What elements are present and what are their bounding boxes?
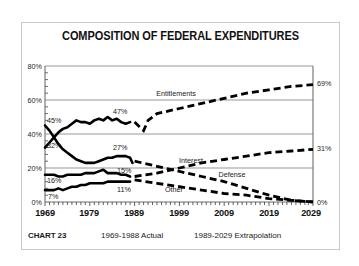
series-defense-dashed <box>135 161 313 202</box>
footer-actual-range: 1969-1988 Actual <box>101 231 163 240</box>
annotation-entitlements: Entitlements <box>156 89 196 98</box>
y-tick-40: 40% <box>28 130 43 139</box>
x-tick-1969: 1969 <box>35 208 55 218</box>
chart-root: COMPOSITION OF FEDERAL EXPENDITURES <box>0 0 359 266</box>
gridlines <box>45 66 313 202</box>
right-axis-labels: 69% 31% 0% <box>317 79 332 207</box>
value-label-7: 7% <box>48 192 59 201</box>
right-label-zero: 0% <box>317 198 328 207</box>
value-label-11: 11% <box>117 185 131 194</box>
x-axis-tick-labels: 1969 1979 1989 1999 2009 2019 2029 <box>35 208 321 218</box>
y-tick-20: 20% <box>28 164 43 173</box>
x-tick-1989: 1989 <box>124 208 144 218</box>
x-tick-2019: 2019 <box>259 208 279 218</box>
value-label-16: 16% <box>47 176 62 185</box>
footer-extrapolation-range: 1989-2029 Extrapolation <box>194 231 281 240</box>
annotation-interest: Interest <box>179 156 203 165</box>
annotation-defense: Defense <box>219 170 246 179</box>
x-tick-1979: 1979 <box>79 208 99 218</box>
x-tick-2029: 2029 <box>301 208 321 218</box>
right-label-interest: 31% <box>317 144 332 153</box>
value-label-15: 15% <box>117 166 132 175</box>
x-tick-1999: 1999 <box>169 208 189 218</box>
y-axis-tick-labels: 80% 60% 40% 20% 0% <box>28 62 43 207</box>
chart-footer: CHART 23 1969-1988 Actual 1989-2029 Extr… <box>28 231 334 245</box>
chart-plot-area: 80% 60% 40% 20% 0% 69% 31% 0% 1969 1979 … <box>0 0 359 266</box>
x-tick-2009: 2009 <box>214 208 234 218</box>
right-label-entitlements: 69% <box>317 79 332 88</box>
value-label-45: 45% <box>47 116 62 125</box>
x-axis-ticks <box>45 202 313 206</box>
annotation-other: Other <box>165 185 184 194</box>
y-tick-0: 0% <box>32 198 43 207</box>
value-label-47: 47% <box>113 107 128 116</box>
value-label-32: 32% <box>47 141 62 150</box>
y-tick-80: 80% <box>28 62 43 71</box>
value-label-27: 27% <box>113 143 128 152</box>
y-tick-60: 60% <box>28 96 43 105</box>
footer-chart-number: CHART 23 <box>28 231 66 240</box>
